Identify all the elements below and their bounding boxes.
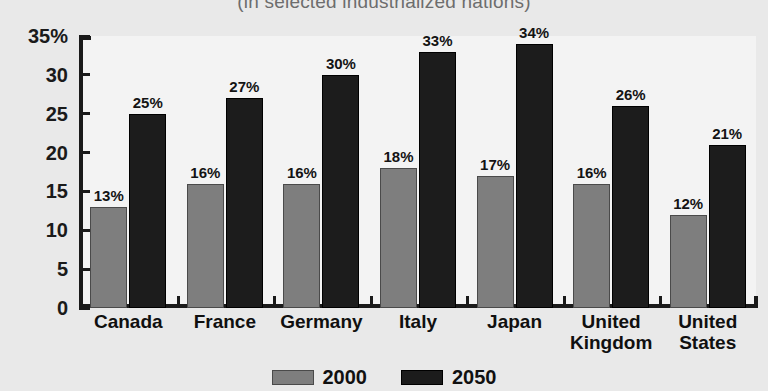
- bar-germany-2050: [322, 75, 359, 308]
- bar-chart: (in selected industrialized nations) 051…: [0, 0, 768, 391]
- category-label-italy: Italy: [399, 311, 437, 332]
- bar-value-label: 16%: [190, 164, 220, 181]
- chart-subtitle: (in selected industrialized nations): [0, 0, 768, 13]
- y-axis-tick-label: 20: [0, 141, 68, 164]
- legend-label: 2050: [452, 366, 497, 389]
- y-axis-tick: [79, 268, 90, 271]
- y-axis-tick: [79, 307, 90, 310]
- chart-legend: 20002050: [0, 366, 768, 389]
- bar-germany-2000: [283, 184, 320, 308]
- legend-entry-2050[interactable]: 2050: [401, 366, 497, 389]
- bar-japan-2050: [516, 44, 553, 308]
- bar-united-kingdom-2050: [612, 106, 649, 308]
- category-label-united-states: United States: [678, 311, 737, 353]
- y-axis-tick-label: 30: [0, 63, 68, 86]
- bar-value-label: 34%: [519, 24, 549, 41]
- y-axis-tick-label: 35%: [0, 25, 68, 48]
- bar-value-label: 12%: [673, 195, 703, 212]
- bar-united-states-2000: [670, 215, 707, 308]
- gray-swatch-icon: [272, 370, 314, 385]
- y-axis-tick-label: 0: [0, 297, 68, 320]
- bar-value-label: 27%: [229, 78, 259, 95]
- y-axis-tick: [79, 151, 90, 154]
- bar-canada-2050: [129, 114, 166, 308]
- category-label-united-kingdom: United Kingdom: [570, 311, 652, 353]
- bar-japan-2000: [477, 176, 514, 308]
- x-axis-right-cap: [754, 296, 758, 308]
- category-label-germany: Germany: [280, 311, 362, 332]
- legend-entry-2000[interactable]: 2000: [272, 366, 368, 389]
- black-swatch-icon: [401, 370, 443, 385]
- x-axis-tick: [177, 296, 180, 306]
- x-axis-tick: [370, 296, 373, 306]
- y-axis-tick: [79, 35, 90, 38]
- bar-value-label: 16%: [577, 164, 607, 181]
- x-axis-tick: [659, 296, 662, 306]
- bar-united-states-2050: [709, 145, 746, 308]
- category-label-canada: Canada: [94, 311, 163, 332]
- legend-label: 2000: [323, 366, 368, 389]
- bar-italy-2050: [419, 52, 456, 308]
- bar-canada-2000: [90, 207, 127, 308]
- bar-value-label: 33%: [422, 32, 452, 49]
- x-axis-tick: [563, 296, 566, 306]
- bar-value-label: 30%: [326, 55, 356, 72]
- y-axis-tick-label: 25: [0, 102, 68, 125]
- bar-value-label: 13%: [94, 187, 124, 204]
- y-axis-tick-label: 10: [0, 219, 68, 242]
- y-axis-tick: [79, 190, 90, 193]
- y-axis-tick-label: 5: [0, 258, 68, 281]
- bar-italy-2000: [380, 168, 417, 308]
- bar-value-label: 26%: [616, 86, 646, 103]
- y-axis-tick: [79, 112, 90, 115]
- plot-area: [80, 36, 756, 308]
- y-axis-tick-label: 15: [0, 180, 68, 203]
- y-axis-tick: [79, 229, 90, 232]
- bar-value-label: 25%: [133, 94, 163, 111]
- bar-value-label: 17%: [480, 156, 510, 173]
- bar-france-2000: [187, 184, 224, 308]
- x-axis-tick: [466, 296, 469, 306]
- bar-united-kingdom-2000: [573, 184, 610, 308]
- bar-value-label: 21%: [712, 125, 742, 142]
- bar-value-label: 16%: [287, 164, 317, 181]
- category-label-japan: Japan: [487, 311, 542, 332]
- bar-value-label: 18%: [383, 148, 413, 165]
- x-axis-tick: [273, 296, 276, 306]
- y-axis-tick: [79, 73, 90, 76]
- category-label-france: France: [194, 311, 256, 332]
- bar-france-2050: [226, 98, 263, 308]
